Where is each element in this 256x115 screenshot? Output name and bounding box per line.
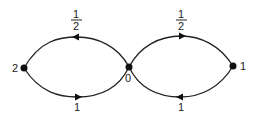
- arrow-left-top-icon: [72, 34, 79, 41]
- arrow-right-bottom-icon: [176, 94, 183, 101]
- edge-right-top-denominator: 2: [178, 20, 184, 32]
- edge-right-bottom: [129, 66, 233, 97]
- node-center-label: 0: [125, 72, 131, 84]
- edge-left-top-denominator: 2: [73, 20, 79, 32]
- node-center: [126, 64, 133, 71]
- edge-right-top: [129, 36, 233, 67]
- edge-right-bottom-label: 1: [178, 101, 184, 113]
- node-left-label: 2: [12, 62, 18, 74]
- node-left: [21, 65, 28, 72]
- edge-left-bottom-label: 1: [74, 101, 80, 113]
- arrow-right-top-icon: [179, 33, 186, 40]
- edge-left-bottom: [24, 67, 129, 97]
- graph-diagram: 2 0 1 1 2 1 2 1 1: [0, 0, 256, 115]
- node-right-label: 1: [240, 60, 246, 72]
- edge-left-top-numerator: 1: [73, 8, 79, 20]
- arrow-left-bottom-icon: [75, 94, 82, 101]
- node-right: [230, 63, 237, 70]
- edge-left-top: [24, 37, 129, 68]
- edge-right-top-numerator: 1: [178, 8, 184, 20]
